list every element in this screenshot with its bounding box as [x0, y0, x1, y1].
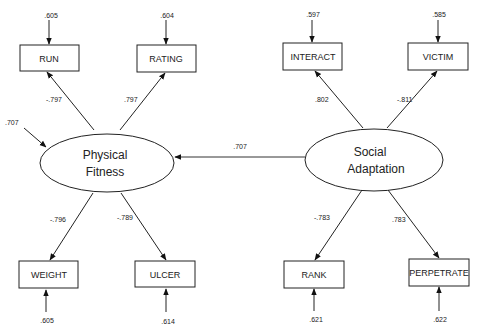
indicator-perpetrate: PERPETRATE .622 .783 — [388, 190, 469, 323]
disturbance-value: .707 — [5, 119, 19, 126]
indicator-label: RANK — [301, 270, 326, 280]
latent-label: Fitness — [86, 165, 125, 179]
disturbance-arrow: .707 — [5, 119, 46, 147]
error-variance: .597 — [306, 11, 320, 18]
indicator-label: RATING — [149, 54, 182, 64]
latent-physical-fitness: Physical Fitness — [40, 134, 174, 192]
factor-loading: -.783 — [314, 214, 330, 221]
error-variance: .614 — [161, 318, 175, 325]
error-variance: .585 — [432, 11, 446, 18]
indicator-label: RUN — [39, 54, 59, 64]
indicator-label: INTERACT — [291, 52, 337, 62]
structural-path: .707 — [175, 143, 305, 157]
indicator-label: WEIGHT — [31, 270, 67, 280]
factor-loading: -.797 — [46, 96, 62, 103]
error-variance: .604 — [160, 12, 174, 19]
factor-loading: -.811 — [397, 96, 413, 103]
factor-loading: .797 — [124, 96, 138, 103]
indicator-interact: INTERACT .597 .802 — [283, 11, 363, 128]
factor-loading: -.796 — [50, 216, 66, 223]
factor-loading: .783 — [392, 216, 406, 223]
indicator-victim: VICTIM .585 -.811 — [387, 11, 468, 128]
indicator-label: ULCER — [150, 270, 181, 280]
error-variance: .605 — [40, 317, 54, 324]
indicator-label: PERPETRATE — [409, 268, 468, 278]
path-coefficient: .707 — [233, 143, 247, 150]
indicator-ulcer: ULCER .614 -.789 — [117, 193, 195, 325]
error-variance: .605 — [44, 12, 58, 19]
indicator-weight: WEIGHT .605 -.796 — [19, 193, 93, 324]
indicator-label: VICTIM — [423, 52, 454, 62]
indicator-rank: RANK .621 -.783 — [284, 190, 362, 323]
indicator-run: RUN .605 -.797 — [20, 12, 94, 130]
latent-label: Physical — [83, 148, 128, 162]
latent-social-adaptation: Social Adaptation — [305, 129, 443, 191]
error-variance: .622 — [433, 316, 447, 323]
latent-label: Adaptation — [347, 162, 404, 176]
latent-label: Social — [354, 145, 387, 159]
indicator-rating: RATING .604 .797 — [120, 12, 196, 130]
error-variance: .621 — [309, 316, 323, 323]
sem-diagram: Physical Fitness Social Adaptation .707 … — [0, 0, 480, 334]
factor-loading: .802 — [315, 96, 329, 103]
factor-loading: -.789 — [117, 214, 133, 221]
